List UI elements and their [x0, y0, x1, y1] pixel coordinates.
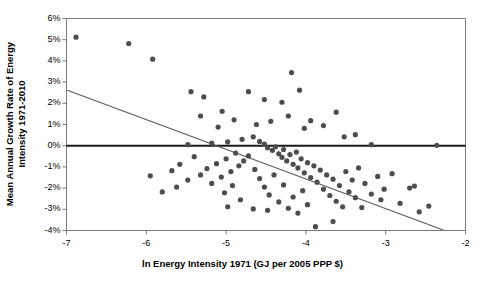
data-point [236, 163, 241, 168]
data-point [177, 162, 182, 167]
data-point [188, 89, 193, 94]
data-point [219, 174, 224, 179]
y-tick-label: -3% [35, 203, 61, 213]
data-point [327, 193, 332, 198]
data-point [231, 117, 236, 122]
data-point [150, 57, 155, 62]
data-point [382, 187, 387, 192]
data-point [126, 41, 131, 46]
data-point [220, 109, 225, 114]
data-point [389, 171, 394, 176]
data-point [417, 209, 422, 214]
data-point [279, 155, 284, 160]
data-point [222, 190, 227, 195]
y-tick-label: -4% [35, 225, 61, 235]
x-tick-label: -3 [371, 238, 401, 248]
data-points [73, 35, 439, 230]
y-tick-label: 2% [35, 97, 61, 107]
y-axis-title: Mean Annual Growth Rate of Energy Intens… [0, 0, 32, 248]
data-point [337, 183, 342, 188]
data-point [291, 162, 296, 167]
data-point [291, 194, 296, 199]
data-point [353, 195, 358, 200]
data-point [375, 174, 380, 179]
data-point [185, 142, 190, 147]
data-point [276, 199, 281, 204]
data-point [308, 175, 313, 180]
data-point [216, 124, 221, 129]
x-tick-label: -5 [211, 238, 241, 248]
x-tick-label: -7 [52, 238, 82, 248]
data-point [246, 153, 251, 158]
data-point [214, 161, 219, 166]
scatter-chart: Mean Annual Growth Rate of Energy Intens… [0, 0, 485, 284]
data-point [73, 35, 78, 40]
data-point [271, 172, 276, 177]
data-point [209, 141, 214, 146]
data-point [265, 208, 270, 213]
y-tick-label: 1% [35, 119, 61, 129]
data-point [241, 158, 246, 163]
data-point [302, 170, 307, 175]
data-point [378, 197, 383, 202]
y-axis-title-line2: Intensity 1971-2010 [16, 42, 28, 206]
data-point [362, 181, 367, 186]
y-axis-title-line1: Mean Annual Growth Rate of Energy [4, 42, 16, 206]
y-tick-label: 3% [35, 76, 61, 86]
x-axis-title: ln Energy Intensity 1971 (GJ per 2005 PP… [0, 258, 485, 269]
data-point [346, 189, 351, 194]
data-point [148, 173, 153, 178]
data-point [252, 167, 257, 172]
plot-frame [67, 19, 466, 231]
data-point [228, 169, 233, 174]
data-point [233, 151, 238, 156]
data-point [281, 147, 286, 152]
data-point [201, 94, 206, 99]
data-point [369, 142, 374, 147]
data-point [334, 110, 339, 115]
data-point [397, 201, 402, 206]
data-point [321, 187, 326, 192]
data-point [160, 189, 165, 194]
data-point [251, 134, 256, 139]
data-point [257, 139, 262, 144]
data-point [300, 188, 305, 193]
data-point [192, 154, 197, 159]
data-point [286, 113, 291, 118]
data-point [204, 166, 209, 171]
data-point [225, 204, 230, 209]
data-point [305, 202, 310, 207]
data-point [297, 88, 302, 93]
data-point [284, 158, 289, 163]
data-point [330, 219, 335, 224]
data-point [224, 156, 229, 161]
data-point [308, 118, 313, 123]
y-tick-label: -1% [35, 161, 61, 171]
data-point [294, 149, 299, 154]
data-point [318, 167, 323, 172]
data-point [169, 168, 174, 173]
data-point [302, 126, 307, 131]
data-point [426, 204, 431, 209]
x-tick-label: -6 [131, 238, 161, 248]
data-point [434, 143, 439, 148]
data-point [198, 113, 203, 118]
data-point [287, 152, 292, 157]
y-tick-label: 5% [35, 34, 61, 44]
data-point [295, 165, 300, 170]
data-point [251, 206, 256, 211]
data-point [174, 184, 179, 189]
data-point [198, 172, 203, 177]
data-point [238, 197, 243, 202]
data-point [262, 97, 267, 102]
data-point [356, 165, 361, 170]
data-point [225, 139, 230, 144]
data-point [359, 205, 364, 210]
x-tick-label: -2 [451, 238, 481, 248]
data-point [311, 163, 316, 168]
data-point [313, 224, 318, 229]
data-point [265, 145, 270, 150]
data-point [369, 191, 374, 196]
data-point [239, 137, 244, 142]
data-point [321, 123, 326, 128]
